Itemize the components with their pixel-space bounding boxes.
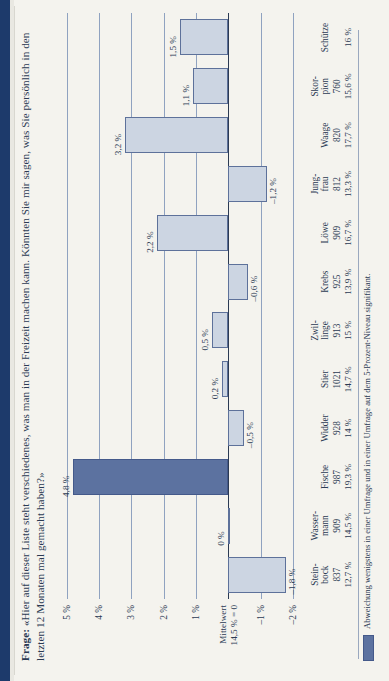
y-tick-label-4: 4 % [94,605,104,620]
bar-value-label-waage: 3,2 % [113,134,123,155]
y-tick-label-neg2: –2 % [288,605,298,625]
bar-skorpion [193,68,229,104]
footnote-rule [358,30,359,659]
category-pct-row: 12,7 %14,5 %19,3 %14 %14,7 %15 %13,9 %16… [342,13,353,599]
category-pct-5: 15 % [342,306,353,355]
bar-value-label-stier: 0,2 % [210,378,220,399]
category-n-4: 1021 [331,355,342,404]
category-name-7: Löwe [308,208,331,257]
category-name-row: Stein-bockWasser-mann Fische Widder Stie… [308,13,331,599]
category-n-9: 820 [331,111,342,160]
y-tick-label-0: Mittelwert14,5 % = 0 [218,605,239,645]
category-n-5: 913 [331,306,342,355]
category-name-1: Wasser-mann [308,501,331,550]
category-pct-3: 14 % [342,404,353,453]
bar-value-label-wassermann: 0 % [216,531,226,546]
category-n-10: 760 [331,62,342,111]
bar-jungfrau [228,166,267,202]
page-root: Frage: «Hier auf dieser Liste steht vers… [0,0,389,681]
category-name-6: Krebs [308,257,331,306]
bar-value-label-widder: –0,5 % [245,422,255,448]
figure-footnote: Abweichung wenigstens in einer Umfrage u… [362,18,374,661]
category-n-7: 909 [331,208,342,257]
bar-value-label-fische: 4,8 % [61,476,71,497]
plot-area: –1,8 %0 %4,8 %–0,5 %0,2 %0,5 %–0,6 %2,2 … [54,13,306,599]
category-n-6: 925 [331,257,342,306]
category-pct-10: 15,6 % [342,62,353,111]
bar-stier [222,361,228,397]
bar-value-label-löwe: 2,2 % [145,231,155,252]
y-tick-label-5: 5 % [62,605,72,620]
category-pct-1: 14,5 % [342,501,353,550]
category-pct-8: 13,3 % [342,160,353,209]
category-n-2: 987 [331,453,342,502]
bar-wassermann [228,508,230,544]
bar-krebs [228,264,247,300]
y-tick-label-neg1: –1 % [256,605,266,625]
category-name-11: Schütze [308,13,331,62]
y-tick-label-2: 2 % [159,605,169,620]
bar-widder [228,410,244,446]
category-pct-2: 19,3 % [342,453,353,502]
bar-value-label-skorpion: 1,1 % [181,85,191,106]
bar-löwe [157,215,228,251]
category-name-0: Stein-bock [308,550,331,599]
category-table: Stein-bockWasser-mann Fische Widder Stie… [308,13,354,599]
category-name-9: Waage [308,111,331,160]
plot-wrapper: 5 %4 %3 %2 %1 %Mittelwert14,5 % = 0–1 %–… [54,13,306,661]
category-n-3: 928 [331,404,342,453]
figure-title: Frage: «Hier auf dieser Liste steht vers… [18,13,48,661]
bar-value-label-zwillinge: 0,5 % [200,329,210,350]
y-axis-tick-labels: 5 %4 %3 %2 %1 %Mittelwert14,5 % = 0–1 %–… [54,599,306,661]
rotated-figure-container: Frage: «Hier auf dieser Liste steht vers… [8,6,381,675]
bar-waage [125,117,228,153]
category-name-2: Fische [308,453,331,502]
category-pct-7: 16,7 % [342,208,353,257]
category-pct-0: 12,7 % [342,550,353,599]
category-name-5: Zwil-linge [308,306,331,355]
y-tick-label-3: 3 % [126,605,136,620]
y-tick-label-1: 1 % [191,605,201,620]
category-name-3: Widder [308,404,331,453]
figure-title-label: Frage: [19,629,31,661]
bar-fische [73,459,228,495]
category-pct-6: 13,9 % [342,257,353,306]
category-n-8: 812 [331,160,342,209]
bar-series: –1,8 %0 %4,8 %–0,5 %0,2 %0,5 %–0,6 %2,2 … [54,13,306,599]
category-n-1: 909 [331,501,342,550]
category-pct-11: 16 % [342,13,353,62]
category-name-4: Stier [308,355,331,404]
bar-value-label-krebs: –0,6 % [249,276,259,302]
bar-steinbock [228,557,286,593]
category-n-11 [331,13,342,62]
bar-zwillinge [212,312,228,348]
category-n-0: 837 [331,550,342,599]
category-pct-4: 14,7 % [342,355,353,404]
bar-schütze [180,19,228,55]
category-pct-9: 17,7 % [342,111,353,160]
bar-value-label-jungfrau: –1,2 % [268,178,278,204]
legend-swatch [363,635,374,661]
figure-title-text: «Hier auf dieser Liste steht verschieden… [19,33,46,661]
bar-value-label-steinbock: –1,8 % [287,569,297,595]
bar-value-label-schütze: 1,5 % [168,36,178,57]
category-n-row: 8379099879281021913925909812820760 [331,13,342,599]
figure: Frage: «Hier auf dieser Liste steht vers… [8,6,381,675]
category-name-8: Jung-frau [308,160,331,209]
category-name-10: Skor-pion [308,62,331,111]
footnote-text: Abweichung wenigstens in einer Umfrage u… [362,274,373,629]
